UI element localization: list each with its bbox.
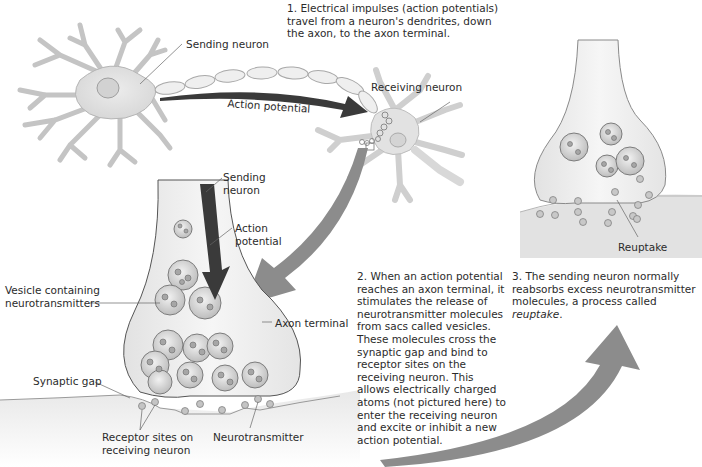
label-axon-terminal: Axon terminal [275, 317, 348, 330]
step-3-number: 3. [512, 270, 522, 282]
step-3-term: reuptake [512, 308, 559, 320]
label-neurotransmitter: Neurotransmitter [213, 431, 304, 444]
step-3-body: The sending neuron normally reabsorbs ex… [512, 270, 696, 307]
label-action-potential-synapse: Action potential [235, 222, 282, 247]
step-3-text: 3. The sending neuron normally reabsorbs… [512, 270, 702, 320]
step-1-body: Electrical impulses (action potentials) … [287, 2, 498, 39]
label-receptor-sites: Receptor sites on receiving neuron [102, 431, 193, 456]
step-1-number: 1. [287, 2, 297, 14]
label-sending-neuron-top: Sending neuron [186, 38, 269, 51]
step-2-number: 2. [357, 270, 367, 282]
step-2-body: When an action potential reaches an axon… [357, 270, 506, 446]
sending-neuron-illustration [20, 25, 170, 165]
label-synaptic-gap: Synaptic gap [33, 375, 102, 388]
step-1-text: 1. Electrical impulses (action potential… [287, 2, 507, 40]
reuptake-illustration [520, 40, 702, 258]
label-vesicle: Vesicle containing neurotransmitters [5, 284, 100, 309]
label-receiving-neuron: Receiving neuron [371, 81, 462, 94]
label-reuptake: Reuptake [618, 241, 667, 254]
label-sending-neuron-synapse: Sending neuron [223, 171, 266, 196]
neuron-diagram-art [0, 0, 702, 467]
step-2-text: 2. When an action potential reaches an a… [357, 270, 507, 446]
